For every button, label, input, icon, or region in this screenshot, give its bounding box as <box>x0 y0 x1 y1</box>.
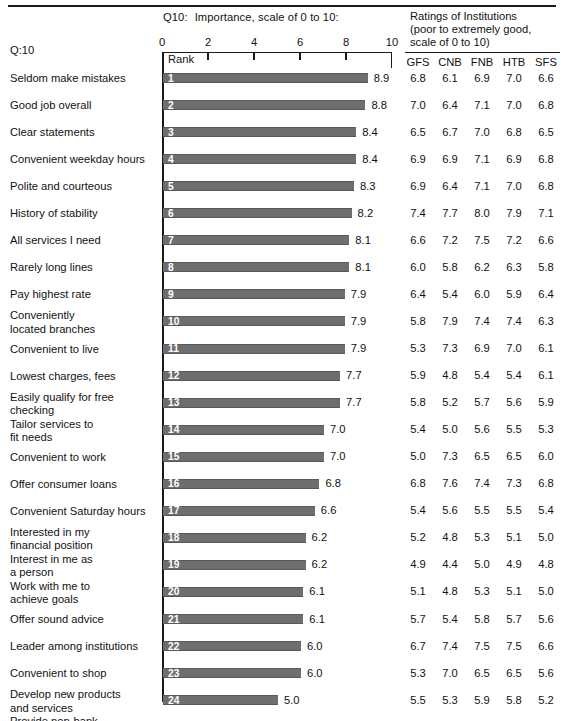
ratings-cell: 6.8 <box>410 477 426 489</box>
bar-value-label: 6.1 <box>309 613 325 625</box>
ratings-cell: 5.2 <box>538 694 554 706</box>
ratings-cell: 6.8 <box>506 126 522 138</box>
chart-row: Conveniently located branches107.95.87.9… <box>0 313 564 340</box>
ratings-cell: 7.9 <box>442 315 458 327</box>
bar <box>163 289 345 299</box>
bar-rank-label: 24 <box>168 695 180 706</box>
ratings-cell: 7.0 <box>506 180 522 192</box>
row-label: Leader among institutions <box>10 640 158 653</box>
ratings-cell: 5.4 <box>410 423 426 435</box>
bar-rank-label: 1 <box>168 73 174 84</box>
bar-rank-label: 13 <box>168 397 180 408</box>
row-label: Offer sound advice <box>10 613 158 626</box>
bar-rank-label: 2 <box>168 100 174 111</box>
row-label: Convenient to live <box>10 343 158 356</box>
chart-row: Offer consumer loans166.86.87.67.47.36.8 <box>0 476 564 503</box>
ratings-cell: 6.8 <box>410 72 426 84</box>
ratings-cell: 5.6 <box>538 613 554 625</box>
bar-rank-label: 4 <box>168 154 174 165</box>
row-label: Seldom make mistakes <box>10 72 158 85</box>
ratings-cell: 5.3 <box>538 423 554 435</box>
row-label: Convenient Saturday hours <box>10 505 158 518</box>
ratings-table-rule <box>405 52 560 53</box>
bar-rank-label: 7 <box>168 235 174 246</box>
chart-row: Work with me to achieve goals206.15.14.8… <box>0 584 564 611</box>
ratings-heading-line2: (poor to extremely good, <box>410 23 531 36</box>
ratings-cell: 7.5 <box>474 640 490 652</box>
row-label: Develop new products and services <box>10 688 158 715</box>
bar <box>163 73 368 83</box>
ratings-cell: 5.5 <box>474 504 490 516</box>
ratings-cell: 5.9 <box>410 369 426 381</box>
bar-value-label: 8.1 <box>355 261 371 273</box>
bar-value-label: 8.8 <box>371 99 387 111</box>
ratings-cell: 6.4 <box>410 288 426 300</box>
axis-tick-label-6: 6 <box>297 36 303 48</box>
bar-value-label: 8.1 <box>355 234 371 246</box>
chart-row: Convenient to live117.95.37.36.97.06.1 <box>0 341 564 368</box>
row-label: Lowest charges, fees <box>10 370 158 383</box>
row-label: Offer consumer loans <box>10 478 158 491</box>
bar-value-label: 7.0 <box>330 423 346 435</box>
bar-value-label: 5.0 <box>284 694 300 706</box>
ratings-cell: 5.8 <box>474 613 490 625</box>
chart-page: Q10:Importance, scale of 0 to 10: Rating… <box>0 0 564 721</box>
row-label: Provide non-bank financial services <box>10 715 158 721</box>
chart-row: Polite and courteous58.36.96.47.17.06.8 <box>0 178 564 205</box>
axis-tick-label-0: 0 <box>159 36 165 48</box>
bar-value-label: 8.3 <box>360 180 376 192</box>
q10-title: Importance, scale of 0 to 10: <box>195 11 339 23</box>
ratings-cell: 5.4 <box>538 504 554 516</box>
ratings-cell: 5.3 <box>474 531 490 543</box>
ratings-cell: 6.5 <box>474 667 490 679</box>
ratings-cell: 5.5 <box>410 694 426 706</box>
axis-tick-4 <box>253 53 254 60</box>
bar <box>163 560 306 570</box>
bar-value-label: 6.2 <box>312 558 328 570</box>
ratings-cell: 6.5 <box>538 126 554 138</box>
ratings-cell: 5.7 <box>474 396 490 408</box>
ratings-cell: 5.5 <box>506 423 522 435</box>
axis-tick-label-2: 2 <box>205 36 211 48</box>
row-label: Pay highest rate <box>10 288 158 301</box>
ratings-cell: 5.8 <box>410 315 426 327</box>
chart-row: Convenient to work157.05.07.36.56.56.0 <box>0 449 564 476</box>
bar-value-label: 6.8 <box>325 477 341 489</box>
bar-value-label: 7.7 <box>346 396 362 408</box>
ratings-cell: 7.5 <box>474 234 490 246</box>
chart-row: Offer sound advice216.15.75.45.85.75.6 <box>0 611 564 638</box>
ratings-cell: 5.3 <box>474 585 490 597</box>
ratings-cell: 4.8 <box>442 369 458 381</box>
ratings-cell: 5.6 <box>442 504 458 516</box>
bar-rank-label: 14 <box>168 424 180 435</box>
ratings-cell: 6.2 <box>474 261 490 273</box>
q10-prefix: Q10: <box>163 11 188 23</box>
chart-row: Tailor services to fit needs147.05.45.05… <box>0 422 564 449</box>
ratings-cell: 6.6 <box>538 640 554 652</box>
axis-tick-label-8: 8 <box>343 36 349 48</box>
ratings-cell: 5.1 <box>410 585 426 597</box>
ratings-cell: 5.9 <box>474 694 490 706</box>
bar-rank-label: 20 <box>168 586 180 597</box>
ratings-cell: 5.3 <box>410 342 426 354</box>
bar <box>163 641 301 651</box>
ratings-cell: 6.4 <box>538 288 554 300</box>
axis-tick-6 <box>299 53 300 60</box>
ratings-cell: 6.8 <box>538 180 554 192</box>
ratings-cell: 6.1 <box>538 369 554 381</box>
bar <box>163 371 340 381</box>
bar <box>163 695 278 705</box>
ratings-cell: 5.7 <box>410 613 426 625</box>
row-label: Convenient to shop <box>10 667 158 680</box>
row-label: Interest in me as a person <box>10 553 158 580</box>
ratings-cell: 4.8 <box>442 585 458 597</box>
ratings-cell: 5.0 <box>474 558 490 570</box>
row-label: Tailor services to fit needs <box>10 418 158 445</box>
ratings-cell: 7.1 <box>474 180 490 192</box>
ratings-cell: 6.1 <box>442 72 458 84</box>
ratings-cell: 5.6 <box>538 667 554 679</box>
ratings-cell: 5.3 <box>410 667 426 679</box>
ratings-cell: 7.0 <box>474 126 490 138</box>
ratings-cell: 5.4 <box>442 288 458 300</box>
ratings-cell: 5.2 <box>442 396 458 408</box>
